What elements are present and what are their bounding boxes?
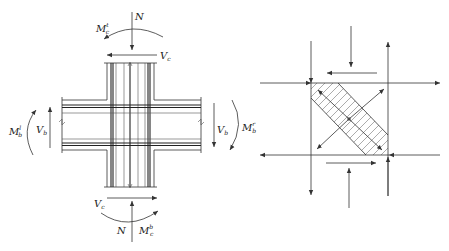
diagonal-strut [300,80,400,172]
right-forces: Vb Mrb [214,100,256,150]
bottom-moment-arrow [101,211,158,222]
figure-canvas: N Mtc Vc Mlb Vb Vb Mrb Vc N M [0,0,449,251]
bottom-axial-label: N [116,225,127,236]
right-shear-label: Vb [217,124,228,136]
left-moment-arrow [27,110,36,155]
top-forces: N Mtc Vc [95,11,171,62]
top-axial-label: N [134,11,145,22]
bottom-shear-label: Vc [94,198,105,210]
left-shear-label: Vb [36,124,47,136]
right-moment-arrow [230,100,239,150]
beam-rebar [62,105,201,146]
top-shear-label: Vc [160,50,171,62]
column-rebar [111,62,150,188]
top-moment-label: Mtc [95,21,110,35]
right-strut-diagram [260,26,440,208]
top-moment-arrow [104,29,163,39]
left-joint-diagram: N Mtc Vc Mlb Vb Vb Mrb Vc N M [8,11,256,242]
bottom-forces: Vc N Mbc [94,198,158,242]
left-moment-label: Mlb [8,124,22,138]
left-forces: Mlb Vb [8,107,50,155]
right-moment-label: Mrb [241,120,256,134]
bottom-moment-label: Mbc [138,223,154,237]
